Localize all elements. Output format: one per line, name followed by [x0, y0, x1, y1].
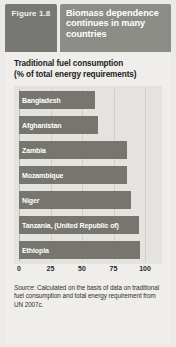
chart-title-line-1: Traditional fuel consumption	[14, 59, 163, 70]
bar: Ethiopia	[19, 241, 140, 259]
bar-series: BangladeshAfghanistanZambiaMozambiqueNig…	[19, 89, 145, 261]
bar-row: Tanzania, (United Republic of)	[19, 216, 145, 234]
bar-row: Ethiopia	[19, 241, 145, 259]
x-tick-75: 75	[110, 265, 118, 272]
bar-label: Tanzania, (United Republic of)	[19, 222, 119, 229]
x-tick-50: 50	[78, 265, 86, 272]
x-tick-25: 25	[47, 265, 55, 272]
bar: Afghanistan	[19, 116, 98, 134]
bar-label: Zambia	[19, 147, 46, 154]
bar: Bangladesh	[19, 91, 95, 109]
chart-panel: Traditional fuel consumption (% of total…	[5, 52, 171, 344]
bar-row: Mozambique	[19, 166, 145, 184]
x-tick-100: 100	[139, 265, 151, 272]
gridline-100	[145, 89, 146, 261]
chart-title: Traditional fuel consumption (% of total…	[5, 52, 171, 80]
bar-row: Bangladesh	[19, 91, 145, 109]
bar-label: Ethiopia	[19, 247, 49, 254]
bar: Zambia	[19, 141, 127, 159]
x-axis: 0255075100	[14, 265, 162, 278]
x-tick-0: 0	[17, 265, 21, 272]
bar-row: Zambia	[19, 141, 145, 159]
chart-title-line-2: (% of total energy requirements)	[14, 70, 163, 81]
bar: Mozambique	[19, 166, 127, 184]
bar: Tanzania, (United Republic of)	[19, 216, 139, 234]
plot-inner: BangladeshAfghanistanZambiaMozambiqueNig…	[19, 89, 145, 261]
figure-card: Figure 1.8 Biomass dependence continues …	[0, 0, 176, 347]
figure-word: Figure	[12, 9, 37, 18]
plot-area: BangladeshAfghanistanZambiaMozambiqueNig…	[14, 86, 162, 264]
figure-number-label: Figure 1.8	[12, 9, 51, 52]
bar: Niger	[19, 191, 131, 209]
figure-header: Figure 1.8 Biomass dependence continues …	[0, 0, 176, 52]
bar-row: Afghanistan	[19, 116, 145, 134]
source-text: Calculated on the basis of data on tradi…	[14, 284, 159, 308]
figure-number-box: Figure 1.8	[5, 4, 57, 52]
bar-label: Bangladesh	[19, 97, 61, 104]
bar-label: Mozambique	[19, 172, 63, 179]
figure-title: Biomass dependence continues in many cou…	[66, 8, 166, 39]
bar-label: Afghanistan	[19, 122, 61, 129]
figure-title-box: Biomass dependence continues in many cou…	[60, 4, 171, 52]
figure-number: 1.8	[39, 9, 50, 18]
bar-row: Niger	[19, 191, 145, 209]
source-note: Source: Calculated on the basis of data …	[14, 284, 161, 309]
source-label: Source:	[14, 284, 35, 291]
bar-label: Niger	[19, 197, 39, 204]
